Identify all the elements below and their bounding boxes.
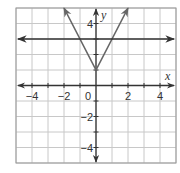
x-tick-label: 4 [157, 90, 163, 102]
coordinate-plane: −4−2024−4−24 x y [0, 0, 180, 173]
x-tick-label: 0 [85, 90, 91, 102]
x-tick-label: 2 [125, 90, 131, 102]
y-tick-label: 4 [87, 18, 93, 30]
x-tick-label: −2 [58, 90, 71, 102]
x-axis-label: x [164, 69, 171, 83]
y-tick-label: −4 [80, 142, 93, 154]
y-tick-label: −2 [80, 111, 93, 123]
x-tick-label: −4 [26, 90, 39, 102]
axes [18, 9, 174, 162]
y-axis-label: y [100, 8, 107, 22]
